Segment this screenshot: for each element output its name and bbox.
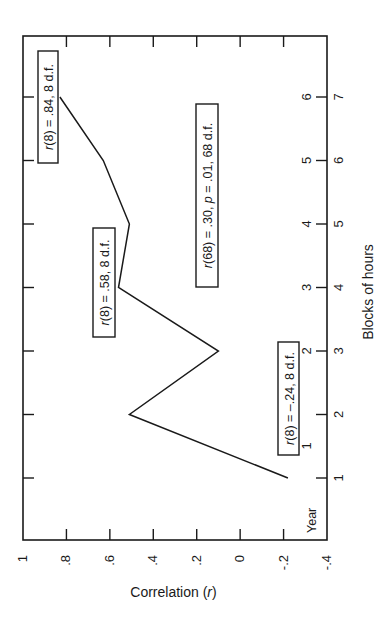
annotation-text: r(8) = .58, 8 d.f. (98, 240, 112, 326)
axis-tick-labels: 1.8.6.4.20-.2-.41234567123456 (15, 93, 346, 570)
correlation-tick-label: .8 (58, 555, 73, 566)
correlation-line-chart: 1.8.6.4.20-.2-.41234567123456 r(8) = .84… (0, 0, 380, 623)
year-tick-label: 2 (331, 411, 346, 418)
annotation-box: r(68) = .30, p = .01, 68 d.f. (196, 104, 218, 287)
year-tick-label: 6 (331, 157, 346, 164)
blocks-tick-label: 5 (299, 157, 314, 164)
x-axis-title-suffix: ) (212, 584, 217, 600)
annotation-text: r(8) = .84, 8 d.f. (42, 64, 56, 150)
annotation-text: r(68) = .30, p = .01, 68 d.f. (201, 123, 215, 268)
blocks-tick-label: 3 (299, 284, 314, 291)
correlation-tick-label: -.4 (319, 555, 334, 570)
x-axis-title-correlation: Correlation (r) (0, 584, 347, 600)
blocks-tick-label: 1 (299, 442, 314, 449)
blocks-tick-label: 6 (299, 93, 314, 100)
year-tick-label: 1 (331, 474, 346, 481)
year-tick-label: 3 (331, 347, 346, 354)
annotation-boxes: r(8) = .84, 8 d.f.r(8) = .58, 8 d.f.r(68… (38, 51, 299, 455)
correlation-tick-label: .2 (189, 555, 204, 566)
plot-border (23, 36, 327, 540)
axis-ticks (23, 36, 327, 540)
correlation-tick-label: 0 (232, 555, 247, 562)
correlation-tick-label: 1 (15, 555, 30, 562)
annotation-box: r(8) = .84, 8 d.f. (38, 51, 58, 163)
plot-frame (23, 36, 327, 540)
blocks-tick-label: 2 (299, 347, 314, 354)
annotation-box: r(8) = .58, 8 d.f. (93, 228, 115, 337)
blocks-tick-label: 4 (299, 220, 314, 227)
axis-title-year: Year (305, 508, 319, 533)
year-tick-label: 5 (331, 220, 346, 227)
annotation-box: r(8) = –.24, 8 d.f. (278, 342, 299, 455)
correlation-tick-label: -.2 (276, 555, 291, 570)
correlation-tick-label: .4 (145, 555, 160, 566)
y-axis-title-blocks-of-hours: Blocks of hours (360, 244, 376, 340)
year-tick-label: 4 (331, 284, 346, 291)
correlation-tick-label: .6 (102, 555, 117, 566)
x-axis-title-prefix: Correlation ( (130, 584, 207, 600)
annotation-text: r(8) = –.24, 8 d.f. (283, 352, 297, 445)
year-tick-label: 7 (331, 93, 346, 100)
